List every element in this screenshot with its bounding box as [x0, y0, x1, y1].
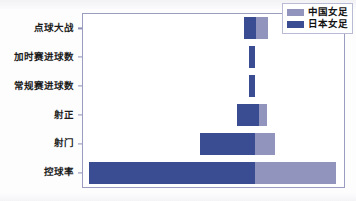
- y-tick-slot: 控球率: [0, 158, 82, 187]
- legend-swatch-japan: [287, 21, 304, 28]
- bar-segment-japan: [200, 133, 255, 155]
- y-tick-label-regular-time-goals: 常规赛进球数: [14, 72, 74, 101]
- chart-figure: 点球大战 加时赛进球数 常规赛进球数 射正 射门 控球率: [0, 0, 356, 201]
- y-tick-slot: 射正: [0, 101, 82, 130]
- bar-segment-china: [255, 162, 336, 184]
- bar-row-extra-time-goals: [83, 43, 344, 72]
- y-tick-label-possession: 控球率: [44, 158, 74, 187]
- bar-segment-japan: [249, 75, 255, 97]
- bar-row-shots: [83, 129, 344, 158]
- legend-entry-china: 中国女足: [287, 6, 348, 18]
- bar-segment-japan: [89, 162, 255, 184]
- y-tick-slot: 射门: [0, 129, 82, 158]
- bars-layer: [83, 14, 344, 187]
- chart-legend: 中国女足 日本女足: [282, 3, 353, 34]
- paper-texture-bottom: [0, 193, 356, 201]
- legend-label-japan: 日本女足: [308, 19, 348, 29]
- bar-row-possession: [83, 158, 344, 187]
- bar-segment-china: [256, 17, 268, 39]
- legend-swatch-china: [287, 9, 304, 16]
- y-tick-label-extra-time-goals: 加时赛进球数: [14, 43, 74, 72]
- bar-segment-japan: [249, 46, 255, 68]
- bar-segment-japan: [237, 104, 259, 126]
- bar-segment-japan: [244, 17, 256, 39]
- y-tick-label-penalty-shootout: 点球大战: [34, 14, 74, 43]
- y-tick-slot: 加时赛进球数: [0, 43, 82, 72]
- bar-row-regular-time-goals: [83, 72, 344, 101]
- legend-label-china: 中国女足: [308, 7, 348, 17]
- legend-entry-japan: 日本女足: [287, 18, 348, 30]
- bar-segment-china: [255, 133, 275, 155]
- y-axis-labels: 点球大战 加时赛进球数 常规赛进球数 射正 射门 控球率: [0, 14, 80, 187]
- bar-row-shots-on-target: [83, 101, 344, 130]
- y-tick-slot: 点球大战: [0, 14, 82, 43]
- bar-segment-china: [259, 104, 267, 126]
- y-tick-label-shots: 射门: [54, 129, 74, 158]
- y-tick-slot: 常规赛进球数: [0, 72, 82, 101]
- y-tick-label-shots-on-target: 射正: [54, 101, 74, 130]
